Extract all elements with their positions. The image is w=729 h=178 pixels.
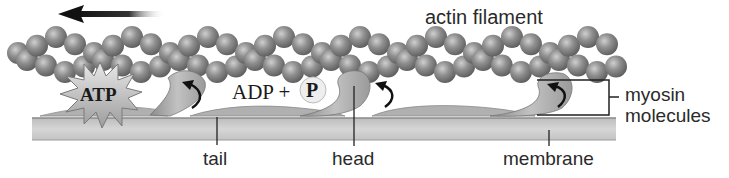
myosin-head-1 bbox=[150, 71, 205, 116]
actin-bead bbox=[349, 26, 371, 48]
actin-bead bbox=[130, 61, 152, 83]
actin-bead bbox=[102, 35, 124, 57]
actin-bead bbox=[558, 35, 580, 57]
actin-bead bbox=[510, 61, 532, 83]
atp-label: ATP bbox=[80, 84, 117, 106]
actin-bead bbox=[292, 33, 314, 55]
arrow-left-icon bbox=[58, 5, 165, 23]
actin-bead bbox=[273, 26, 295, 48]
phosphate-label: P bbox=[306, 79, 318, 102]
myosin-actin-diagram: actin filament ATP ADP + P myosin molecu… bbox=[0, 0, 729, 178]
actin-bead bbox=[206, 61, 228, 83]
actin-bead bbox=[254, 35, 276, 57]
adp-label: ADP + bbox=[232, 80, 290, 105]
actin-bead bbox=[64, 33, 86, 55]
actin-bead bbox=[197, 26, 219, 48]
tail-label: tail bbox=[203, 149, 227, 169]
actin-bead bbox=[216, 33, 238, 55]
actin-bead bbox=[35, 55, 57, 77]
myosin-label: myosin bbox=[625, 85, 685, 105]
actin-filament-label: actin filament bbox=[425, 7, 543, 27]
actin-bead bbox=[491, 55, 513, 77]
actin-bead bbox=[140, 33, 162, 55]
actin-bead bbox=[501, 26, 523, 48]
actin-bead bbox=[605, 55, 627, 77]
actin-bead bbox=[425, 26, 447, 48]
actin-bead bbox=[444, 33, 466, 55]
actin-bead bbox=[415, 55, 437, 77]
actin-bead bbox=[482, 35, 504, 57]
actin-bead bbox=[121, 26, 143, 48]
actin-bead bbox=[577, 26, 599, 48]
actin-bead bbox=[45, 26, 67, 48]
actin-bead bbox=[178, 35, 200, 57]
actin-bead bbox=[406, 35, 428, 57]
molecules-label: molecules bbox=[625, 106, 711, 126]
actin-bead bbox=[434, 61, 456, 83]
actin-bead bbox=[263, 55, 285, 77]
actin-bead bbox=[520, 33, 542, 55]
actin-bead bbox=[368, 33, 390, 55]
actin-bead bbox=[596, 33, 618, 55]
head-label: head bbox=[332, 149, 374, 169]
actin-bead bbox=[26, 35, 48, 57]
actin-bead bbox=[567, 55, 589, 77]
membrane-label: membrane bbox=[503, 149, 594, 169]
actin-bead bbox=[330, 35, 352, 57]
